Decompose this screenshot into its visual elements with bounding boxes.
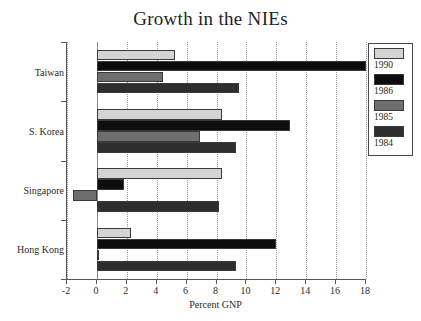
bar-singapore-1990 <box>97 168 223 179</box>
y-axis-category-label: Hong Kong <box>17 244 64 255</box>
gridline <box>276 42 278 279</box>
y-axis-tick <box>61 279 66 280</box>
x-axis-tick <box>216 279 217 284</box>
y-axis-tick <box>61 42 66 43</box>
legend-entry-1990[interactable]: 1990 <box>373 48 409 71</box>
bar-singapore-1985 <box>73 190 97 201</box>
legend-label-1986: 1986 <box>373 85 409 97</box>
x-axis-tick <box>186 279 187 284</box>
x-axis-tick-label: 4 <box>153 285 158 296</box>
legend-entry-1986[interactable]: 1986 <box>373 74 409 97</box>
bar-s-korea-1986 <box>97 120 290 131</box>
bar-hong-kong-1986 <box>97 239 276 250</box>
x-axis-label: Percent GNP <box>66 299 365 310</box>
legend-label-1984: 1984 <box>373 137 409 149</box>
bar-s-korea-1985 <box>97 131 200 142</box>
bar-taiwan-1990 <box>97 50 175 61</box>
x-axis-tick-label: 10 <box>240 285 250 296</box>
x-axis-tick <box>96 279 97 284</box>
y-axis-category-label: S. Korea <box>29 125 64 136</box>
gridline <box>67 42 69 279</box>
legend-entry-1985[interactable]: 1985 <box>373 100 409 123</box>
x-axis-tick <box>156 279 157 284</box>
bar-singapore-1984 <box>97 201 220 212</box>
legend-entry-1984[interactable]: 1984 <box>373 126 409 149</box>
x-axis-tick-label: 2 <box>123 285 128 296</box>
legend-swatch-1990 <box>374 48 404 59</box>
x-axis-tick <box>365 279 366 284</box>
gridline <box>336 42 338 279</box>
bar-s-korea-1984 <box>97 142 236 153</box>
x-axis-tick <box>245 279 246 284</box>
x-axis-tick <box>275 279 276 284</box>
legend-swatch-1984 <box>374 126 404 137</box>
bar-s-korea-1990 <box>97 109 223 120</box>
bar-hong-kong-1990 <box>97 228 131 239</box>
y-axis-tick <box>61 101 66 102</box>
y-axis-category-label: Singapore <box>23 185 64 196</box>
legend-swatch-1986 <box>374 74 404 85</box>
x-axis-tick <box>126 279 127 284</box>
x-axis-tick-label: 8 <box>213 285 218 296</box>
bar-hong-kong-1985 <box>97 250 99 261</box>
chart-title: Growth in the NIEs <box>0 8 421 30</box>
x-axis-tick-label: -2 <box>62 285 70 296</box>
chart-legend: 1990198619851984 <box>368 43 413 156</box>
x-axis-tick-label: 16 <box>330 285 340 296</box>
x-axis-tick-label: 0 <box>93 285 98 296</box>
bar-singapore-1986 <box>97 179 124 190</box>
x-axis-tick-label: 12 <box>270 285 280 296</box>
gridline <box>306 42 308 279</box>
x-axis-tick-label: 6 <box>183 285 188 296</box>
x-axis-tick-label: 18 <box>360 285 370 296</box>
chart-page: Growth in the NIEs Percent GNP 199019861… <box>0 0 421 321</box>
bar-taiwan-1986 <box>97 61 366 72</box>
legend-label-1990: 1990 <box>373 59 409 71</box>
plot-area <box>66 42 365 279</box>
x-axis-tick <box>66 279 67 284</box>
y-axis-category-label: Taiwan <box>35 66 64 77</box>
legend-label-1985: 1985 <box>373 111 409 123</box>
x-axis-tick <box>305 279 306 284</box>
legend-swatch-1985 <box>374 100 404 111</box>
plot-inner <box>67 42 365 279</box>
bar-taiwan-1984 <box>97 83 239 94</box>
y-axis-tick <box>61 220 66 221</box>
x-axis-tick-label: 14 <box>300 285 310 296</box>
bar-taiwan-1985 <box>97 72 163 83</box>
y-axis-tick <box>61 161 66 162</box>
x-axis-tick <box>335 279 336 284</box>
bar-hong-kong-1984 <box>97 261 236 272</box>
